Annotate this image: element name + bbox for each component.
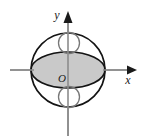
geometry-figure: y x O [0,0,143,139]
x-axis-label: x [124,73,131,87]
origin-label: O [58,72,66,84]
figure-canvas: y x O [0,0,143,139]
y-axis-label: y [53,8,60,22]
y-axis-arrowhead [64,11,73,23]
